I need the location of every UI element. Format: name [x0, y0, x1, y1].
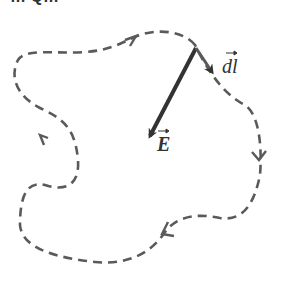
closed-loop-diagram [0, 0, 282, 287]
dl-label: dl [222, 55, 238, 78]
e-label: E [157, 133, 170, 156]
dl-vector [196, 48, 212, 72]
e-field-vector [150, 48, 196, 136]
